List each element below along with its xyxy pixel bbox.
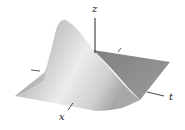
x-axis-back-segment xyxy=(31,70,40,71)
surface-plot-canvas xyxy=(0,0,185,130)
t-axis-label: t xyxy=(169,92,173,102)
surface-plot: z t x xyxy=(0,0,185,130)
x-axis-label: x xyxy=(59,112,65,122)
z-axis-label: z xyxy=(92,4,97,14)
t-axis-back-tick xyxy=(118,48,121,52)
t-axis-line xyxy=(147,92,164,96)
